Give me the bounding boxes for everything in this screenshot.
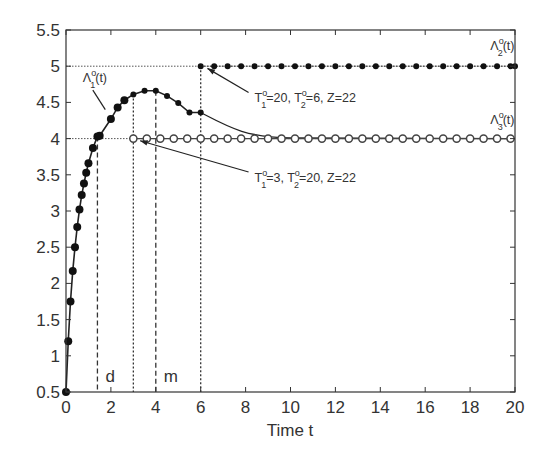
series-lambda1-marker — [66, 298, 74, 306]
series-lambda2-marker — [413, 63, 419, 69]
series-lambda3-marker — [453, 135, 460, 142]
series-lambda1-marker — [75, 206, 83, 214]
series-lambda3-marker — [413, 135, 420, 142]
y-tick-label: 5 — [51, 57, 60, 76]
series-lambda2-marker — [386, 63, 392, 69]
reference-lines: dm — [66, 66, 515, 392]
series-lambda2-marker — [279, 63, 285, 69]
series-lambda2-marker — [332, 63, 338, 69]
series-lambda2-marker — [225, 63, 231, 69]
x-tick-label: 16 — [416, 398, 435, 417]
series-lambda2-marker — [400, 63, 406, 69]
x-tick-label: 2 — [106, 398, 115, 417]
x-tick-label: 6 — [196, 398, 205, 417]
series-lambda2-marker — [292, 63, 298, 69]
series-lambda1-marker — [71, 243, 79, 251]
series-lambda2-marker — [211, 63, 217, 69]
series-lambda3-marker — [157, 135, 164, 142]
series-lambda1-tail — [201, 113, 515, 139]
series-lambda2-marker — [198, 63, 204, 69]
axis-ticks: 024681012141618200.511.522.533.544.555.5 — [36, 21, 524, 417]
series-lambda2-marker — [305, 63, 311, 69]
series-lambda1-marker — [107, 115, 115, 123]
series-lambda3-marker — [399, 135, 406, 142]
series-lambda1-marker — [73, 223, 81, 231]
reference-label-m: m — [164, 367, 178, 386]
series-lambda1-marker — [69, 267, 77, 275]
series-label: Λo1(t) — [83, 68, 107, 90]
y-tick-label: 2.5 — [36, 238, 60, 257]
x-tick-label: 8 — [241, 398, 250, 417]
series-lambda3-marker — [238, 135, 245, 142]
series-lambda1-marker — [164, 93, 170, 99]
series-lambda1-marker — [78, 191, 86, 199]
y-tick-label: 2 — [51, 274, 60, 293]
parameter-annotation: To1=3, To2=20, Z=22 — [255, 168, 356, 190]
x-axis-label: Time t — [267, 421, 314, 440]
series-lambda3-marker — [480, 135, 487, 142]
series-lambda3-marker — [467, 135, 474, 142]
x-tick-label: 12 — [326, 398, 345, 417]
y-tick-label: 4.5 — [36, 93, 60, 112]
x-tick-label: 4 — [151, 398, 160, 417]
series-lambda3-marker — [440, 135, 447, 142]
series-lambda1-marker — [130, 91, 136, 97]
parameter-annotation: To1=20, To2=6, Z=22 — [255, 88, 356, 110]
series-lambda2-marker — [319, 63, 325, 69]
series-lambda3-marker — [291, 135, 298, 142]
series-lambda3-marker — [359, 135, 366, 142]
series-lambda2-marker — [346, 63, 352, 69]
series-lambda2-marker — [252, 63, 258, 69]
x-tick-label: 0 — [61, 398, 70, 417]
series-lambda3-marker — [372, 135, 379, 142]
x-tick-label: 20 — [506, 398, 525, 417]
series-lambda2-marker — [494, 63, 500, 69]
series-lambda1-marker — [142, 88, 148, 94]
series-lambda1-marker — [198, 110, 204, 116]
x-tick-label: 14 — [371, 398, 390, 417]
series-lambda1-marker — [82, 169, 90, 177]
series-lambda3-marker — [224, 135, 231, 142]
series-lambda1-marker — [175, 100, 181, 106]
series-lambda3-marker — [130, 135, 137, 142]
y-tick-label: 5.5 — [36, 21, 60, 40]
y-tick-label: 1.5 — [36, 311, 60, 330]
series-lambda3-marker — [211, 135, 218, 142]
series-group — [62, 63, 518, 396]
series-lambda1-marker — [80, 179, 88, 187]
series-lambda1-marker — [120, 96, 128, 104]
series-label: Λo3(t) — [490, 110, 514, 132]
series-lambda2-marker — [359, 63, 365, 69]
series-lambda2-marker — [427, 63, 433, 69]
series-lambda3-marker — [197, 135, 204, 142]
y-tick-label: 3 — [51, 202, 60, 221]
y-tick-label: 4 — [51, 130, 60, 149]
arrowhead-icon — [207, 68, 215, 74]
series-lambda1-marker — [89, 144, 97, 152]
series-lambda1-marker — [153, 88, 159, 94]
series-lambda3-marker — [264, 135, 271, 142]
series-lambda2-marker — [481, 63, 487, 69]
series-lambda1-marker — [186, 110, 192, 116]
series-lambda3-marker — [251, 135, 258, 142]
series-lambda2-marker — [238, 63, 244, 69]
series-lambda3-marker — [318, 135, 325, 142]
series-lambda2-marker — [467, 63, 473, 69]
line-chart: dm 024681012141618200.511.522.533.544.55… — [0, 0, 550, 467]
series-lambda1-marker — [114, 103, 122, 111]
series-label: Λo2(t) — [490, 36, 514, 58]
series-lambda3-marker — [493, 135, 500, 142]
series-lambda1-marker — [96, 132, 104, 140]
series-lambda3-marker — [278, 135, 285, 142]
series-lambda3-marker — [386, 135, 393, 142]
series-lambda3-marker — [170, 135, 177, 142]
arrowhead-icon — [140, 140, 148, 145]
series-lambda3-marker — [345, 135, 352, 142]
y-tick-label: 3.5 — [36, 166, 60, 185]
annotations: Λo1(t)Λo2(t)Λo3(t)To1=20, To2=6, Z=22To1… — [83, 36, 515, 190]
series-lambda2-marker — [265, 63, 271, 69]
series-lambda2-marker — [454, 63, 460, 69]
series-lambda3-marker — [332, 135, 339, 142]
y-tick-label: 1 — [51, 347, 60, 366]
series-lambda3-marker — [184, 135, 191, 142]
